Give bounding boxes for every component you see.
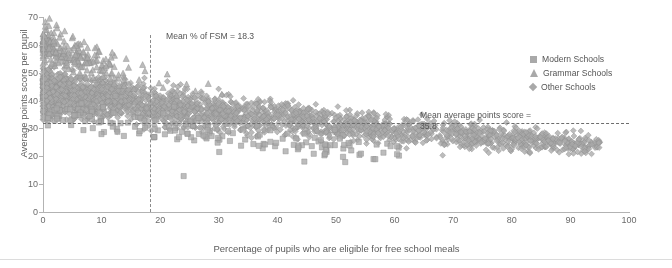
square-marker-icon [530, 56, 537, 63]
x-tick-label: 50 [321, 216, 351, 225]
legend-label-modern-schools: Modern Schools [542, 54, 604, 64]
x-tick-label: 40 [262, 216, 292, 225]
x-axis-title: Percentage of pupils who are eligible fo… [43, 243, 630, 254]
y-axis-title: Average points score per pupil [18, 0, 29, 194]
x-tick-label: 60 [380, 216, 410, 225]
x-axis-line [43, 212, 630, 213]
x-tick-label: 20 [145, 216, 175, 225]
legend-item-modern-schools: Modern Schools [530, 52, 612, 66]
y-tick-mark [39, 156, 43, 157]
legend-label-other-schools: Other Schools [541, 82, 595, 92]
y-tick-mark [39, 45, 43, 46]
triangle-marker-icon [530, 69, 538, 77]
chart-legend: Modern Schools Grammar Schools Other Sch… [530, 52, 612, 94]
legend-label-grammar-schools: Grammar Schools [543, 68, 612, 78]
y-tick-mark [39, 73, 43, 74]
scatter-plot-canvas [0, 0, 672, 268]
y-axis-line [43, 17, 44, 213]
y-tick-mark [39, 128, 43, 129]
x-tick-label: 0 [28, 216, 58, 225]
x-tick-label: 100 [614, 216, 644, 225]
y-tick-mark [39, 212, 43, 213]
legend-item-other-schools: Other Schools [530, 80, 612, 94]
mean-aps-reference-line [43, 123, 629, 124]
footer-divider [0, 259, 672, 260]
y-tick-mark [39, 17, 43, 18]
legend-item-grammar-schools: Grammar Schools [530, 66, 612, 80]
x-tick-label: 10 [87, 216, 117, 225]
x-tick-label: 80 [497, 216, 527, 225]
x-tick-label: 90 [555, 216, 585, 225]
mean-aps-annotation: Mean average points score = 35.8 [420, 110, 531, 132]
diamond-marker-icon [529, 83, 537, 91]
mean-fsm-annotation: Mean % of FSM = 18.3 [166, 31, 254, 42]
mean-aps-annotation-line1: Mean average points score = [420, 110, 531, 121]
scatter-chart: 010203040506070 0102030405060708090100 A… [0, 0, 672, 268]
x-tick-label: 70 [438, 216, 468, 225]
y-tick-mark [39, 184, 43, 185]
y-tick-mark [39, 101, 43, 102]
mean-aps-annotation-line2: 35.8 [420, 121, 531, 132]
x-tick-label: 30 [204, 216, 234, 225]
